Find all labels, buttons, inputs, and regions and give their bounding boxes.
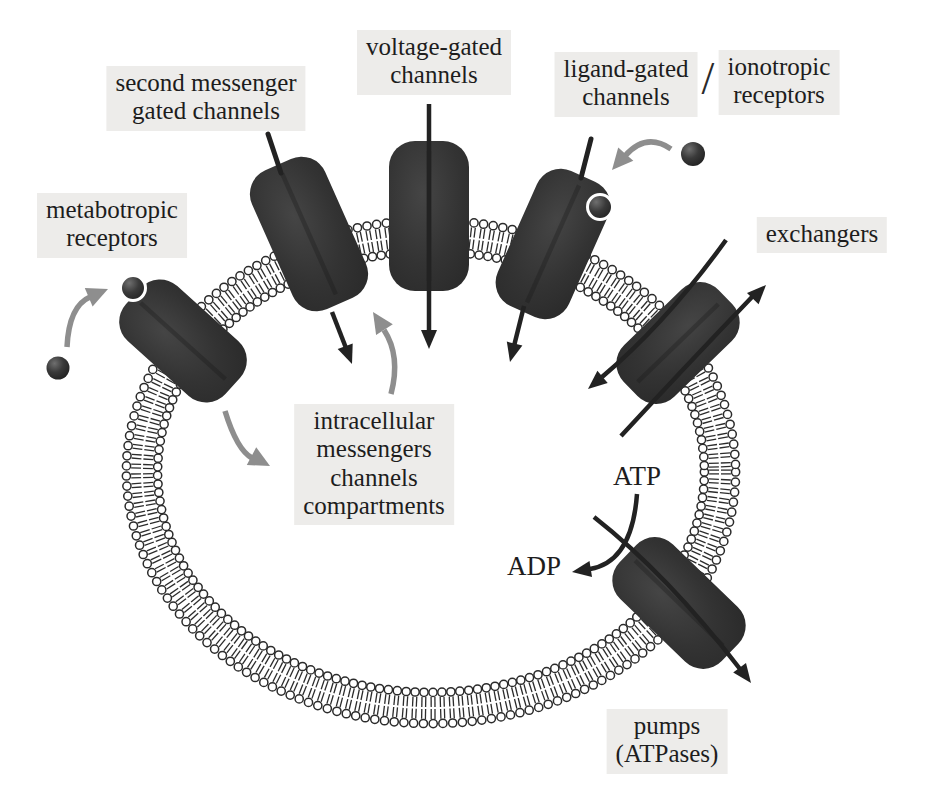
label-pumps-atpases: pumps (ATPases) [607,709,728,774]
label-voltage-gated-channels: voltage-gated channels [357,30,511,95]
ligand-ball-bound-metabotropic [121,276,146,301]
label-metabotropic-receptors: metabotropic receptors [37,193,187,258]
label-slash: / [702,56,715,102]
ligand-flux-arrow [507,306,524,362]
exchanger [606,271,751,414]
label-ionotropic-receptors: ionotropic receptors [719,50,840,115]
label-intracellular-messengers: intracellular messengers channels compar… [294,404,454,525]
ligand-binding-arrow-ionotropic [612,142,671,170]
label-adp: ADP [507,551,561,582]
ligand-ball-free-left [47,357,70,380]
cell-membrane-diagram: metabotropic receptors second messenger … [0,0,931,804]
label-atp: ATP [613,461,661,492]
signal-arrow-metabotropic [225,411,270,466]
label-exchangers: exchangers [757,217,887,253]
gate-stick-ligand [581,139,591,178]
label-ligand-gated-channels: ligand-gated channels [555,52,698,117]
recycle-arrow-intracellular [373,312,395,394]
ligand-ball-free-right [681,142,705,166]
second-messenger-flux-arrow [332,312,353,364]
label-second-messenger-gated-channels: second messenger gated channels [106,66,305,131]
ligand-ball-bound-ionotropic [588,195,613,220]
ligand-binding-arrow-metabotropic [67,288,108,347]
